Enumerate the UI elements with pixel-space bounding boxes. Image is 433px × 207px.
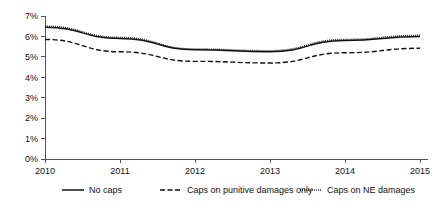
y-tick-label: 1%	[25, 134, 38, 144]
y-tick-label: 2%	[25, 113, 38, 123]
y-tick-label: 3%	[25, 93, 38, 103]
y-tick-label: 6%	[25, 32, 38, 42]
x-tick-label: 2010	[35, 166, 55, 176]
y-tick-label: 4%	[25, 73, 38, 83]
x-tick-label: 2011	[110, 166, 129, 176]
legend-label: Caps on punitive damages only	[187, 185, 313, 195]
y-tick-label: 5%	[25, 52, 38, 62]
series-line-2	[45, 26, 420, 51]
y-axis: 7%6%5%4%3%2%1%0%	[25, 11, 45, 164]
series-layer	[45, 26, 420, 63]
y-tick-label: 0%	[25, 154, 38, 164]
chart-legend: No capsCaps on punitive damages onlyCaps…	[62, 185, 416, 195]
legend-label: Caps on NE damages	[327, 185, 416, 195]
x-tick-label: 2015	[410, 166, 430, 176]
x-tick-label: 2012	[185, 166, 205, 176]
x-tick-label: 2013	[260, 166, 280, 176]
line-chart-figure: 7%6%5%4%3%2%1%0% 20102011201220132014201…	[0, 0, 433, 207]
x-tick-label: 2014	[335, 166, 355, 176]
legend-label: No caps	[89, 185, 123, 195]
x-axis: 201020112012201320142015	[35, 159, 430, 176]
chart-plot-area: 7%6%5%4%3%2%1%0% 20102011201220132014201…	[0, 0, 433, 207]
y-tick-label: 7%	[25, 11, 38, 21]
